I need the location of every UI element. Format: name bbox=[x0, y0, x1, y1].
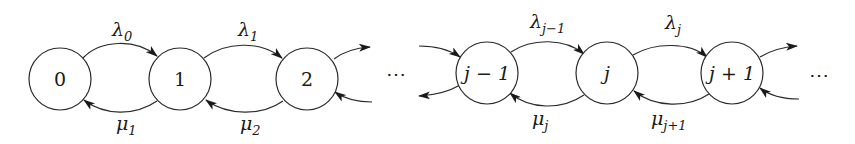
state-label: j + 1 bbox=[705, 62, 755, 84]
edge-j-to-jm1 bbox=[510, 93, 584, 106]
ellipsis-right: ⋯ bbox=[809, 63, 832, 87]
rate-label-mu-j-plus-1: μj+1 bbox=[651, 107, 687, 133]
state-node-j-plus-1: j + 1 bbox=[701, 42, 763, 104]
state-node-0: 0 bbox=[29, 48, 91, 110]
state-label: j − 1 bbox=[460, 62, 510, 84]
edge-2-to-1 bbox=[206, 100, 283, 112]
ellipsis-left: ⋯ bbox=[386, 62, 409, 86]
edge-1-to-0 bbox=[84, 100, 157, 112]
state-node-1: 1 bbox=[149, 48, 211, 110]
rate-label-lambda-0: λ0 bbox=[111, 18, 132, 44]
rate-label-lambda-1: λ1 bbox=[237, 18, 258, 44]
edge-incoming-to-jm1 bbox=[419, 46, 460, 57]
rate-label-mu-1: μ1 bbox=[116, 112, 137, 138]
edge-jm1-to-j bbox=[511, 42, 584, 54]
state-node-2: 2 bbox=[276, 48, 338, 110]
edge-jp1-to-j bbox=[634, 91, 709, 104]
rate-label-mu-j: μj bbox=[532, 107, 548, 133]
birth-death-diagram: 0 1 2 j − 1 j j + 1 λ0 μ1 λ1 μ2 λj−1 μj … bbox=[0, 0, 855, 144]
state-label: 2 bbox=[301, 68, 313, 90]
state-node-j: j bbox=[576, 42, 638, 104]
state-label: 1 bbox=[174, 68, 186, 90]
edge-jm1-outgoing bbox=[419, 85, 460, 96]
state-label: 0 bbox=[54, 68, 66, 90]
rate-label-lambda-j: λj bbox=[664, 11, 681, 37]
rate-label-mu-2: μ2 bbox=[240, 112, 261, 138]
state-node-j-minus-1: j − 1 bbox=[456, 42, 518, 104]
rate-label-lambda-j-minus-1: λj−1 bbox=[529, 10, 565, 36]
edge-incoming-to-2 bbox=[335, 92, 372, 102]
edge-1-to-2 bbox=[204, 45, 282, 58]
edge-2-outgoing bbox=[334, 47, 370, 59]
edge-incoming-to-jp1 bbox=[760, 88, 799, 99]
edge-0-to-1 bbox=[83, 43, 157, 58]
edge-jp1-outgoing bbox=[760, 46, 797, 57]
edge-j-to-jp1 bbox=[633, 45, 707, 57]
